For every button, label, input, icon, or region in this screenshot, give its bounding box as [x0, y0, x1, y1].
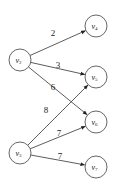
edge-weight-label: 6 [51, 82, 56, 92]
node-v2: v2 [9, 49, 31, 71]
edge-weight-label: 3 [56, 60, 61, 70]
node-v5: v5 [85, 66, 107, 88]
edge-weight-label: 2 [51, 28, 56, 38]
node-v3: v3 [9, 142, 31, 164]
edge-weight-label: 7 [58, 151, 63, 161]
edges-group [28, 31, 88, 165]
node-v4: v4 [85, 15, 107, 37]
graph-canvas: 236877 v2v3v4v5v6v7 [0, 0, 118, 190]
graph-diagram: 236877 v2v3v4v5v6v7 [0, 0, 118, 190]
node-v6: v6 [85, 111, 107, 133]
node-v7: v7 [85, 156, 107, 178]
edge-weight-label: 7 [57, 128, 62, 138]
edge-v2-v6 [29, 67, 88, 115]
edge-v2-v4 [30, 31, 86, 56]
edge-weight-label: 8 [44, 105, 49, 115]
